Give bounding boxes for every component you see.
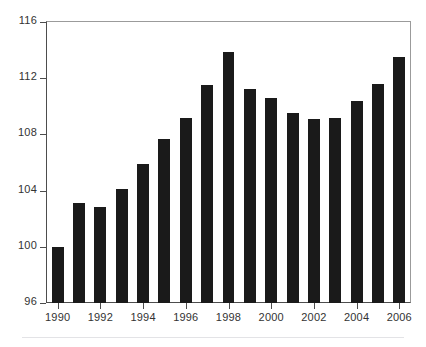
bar-chart-figure: 96100104108112116 1990199219941996199820… [0, 0, 426, 347]
y-axis-tick-mark [40, 191, 46, 192]
y-axis-tick-mark [40, 303, 46, 304]
y-axis-tick-label: 100 [18, 239, 37, 251]
x-axis-tick-label: 2004 [344, 311, 369, 323]
x-axis-tick-label: 2000 [259, 311, 284, 323]
y-axis-tick-label: 116 [19, 14, 37, 26]
bar [329, 118, 341, 303]
x-axis-tick-mark [399, 303, 400, 309]
bar [180, 118, 192, 303]
y-axis-tick-label: 104 [18, 183, 37, 195]
x-axis-tick-mark [314, 303, 315, 309]
bar [94, 207, 106, 303]
x-axis-tick-label: 2006 [387, 311, 412, 323]
x-axis-tick-label: 1992 [88, 311, 113, 323]
x-axis-tick-mark [100, 303, 101, 309]
y-axis-tick-mark [40, 247, 46, 248]
bar [223, 52, 235, 303]
bar [201, 85, 213, 303]
bar [244, 89, 256, 303]
x-axis-tick-label: 2002 [301, 311, 326, 323]
y-axis-tick-mark [40, 22, 46, 23]
x-axis-tick-mark [143, 303, 144, 309]
y-axis-tick-mark [40, 78, 46, 79]
bars-container [47, 22, 410, 303]
x-axis-tick-mark [229, 303, 230, 309]
bar [351, 101, 363, 303]
x-axis-tick-label: 1990 [45, 311, 70, 323]
x-axis-tick-mark [186, 303, 187, 309]
bar [116, 189, 128, 303]
x-axis-tick-label: 1996 [173, 311, 198, 323]
bar [52, 247, 64, 303]
bar [308, 119, 320, 303]
x-axis-tick-label: 1994 [130, 311, 155, 323]
x-axis-tick-mark [271, 303, 272, 309]
y-axis-tick-label: 112 [19, 70, 37, 82]
bar [372, 84, 384, 303]
y-axis-tick-mark [40, 134, 46, 135]
bar [137, 164, 149, 303]
y-axis: 96100104108112116 [0, 0, 46, 347]
x-axis: 199019921994199619982000200220042006 [47, 303, 410, 333]
bar [73, 203, 85, 303]
bar [158, 139, 170, 303]
bar [393, 57, 405, 303]
bar [287, 113, 299, 303]
x-axis-tick-mark [357, 303, 358, 309]
x-axis-tick-label: 1998 [216, 311, 241, 323]
footer-divider [22, 337, 404, 338]
x-axis-tick-mark [58, 303, 59, 309]
y-axis-tick-label: 108 [18, 126, 37, 138]
bar [265, 98, 277, 303]
y-axis-tick-label: 96 [24, 295, 37, 307]
